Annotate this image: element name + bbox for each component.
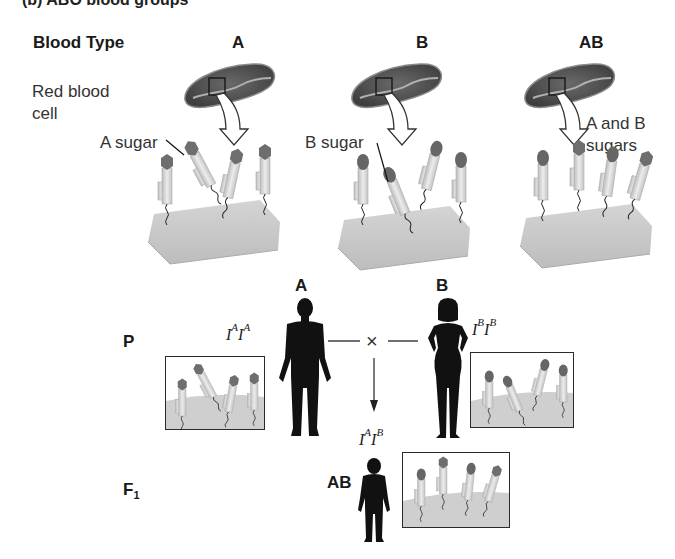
child-silhouette-icon: [356, 458, 392, 544]
inset-a-drawing: [166, 357, 264, 429]
inset-ab-drawing: [403, 453, 509, 527]
offspring-membrane-inset: [402, 452, 510, 528]
male-silhouette-icon: [275, 298, 335, 438]
parent-b-membrane-inset: [470, 352, 574, 428]
cross-lines: [0, 0, 675, 559]
female-silhouette-icon: [420, 298, 476, 438]
parent-a-membrane-inset: [165, 356, 265, 430]
cross-symbol: ×: [366, 330, 378, 353]
inset-b-drawing: [471, 353, 573, 427]
